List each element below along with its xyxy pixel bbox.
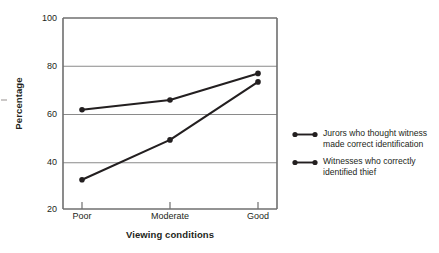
- x-axis-title: Viewing conditions: [63, 229, 277, 240]
- chart-legend: Jurors who thought witness made correct …: [292, 128, 439, 184]
- data-point-witnesses-good: [255, 79, 261, 85]
- series-witnesses-line: [82, 82, 258, 180]
- x-tick-marks: [82, 202, 258, 209]
- x-tick-label-moderate: Moderate: [134, 211, 206, 221]
- gridlines: [63, 66, 277, 163]
- data-point-jurors-moderate: [167, 97, 173, 103]
- series-witnesses: [79, 79, 261, 182]
- series-jurors-line: [82, 73, 258, 109]
- y-axis-title: Percentage: [13, 69, 24, 139]
- y-tick-label-80: 80: [31, 61, 57, 71]
- line-chart-figure: 100 80 60 40 20 Poor Moderate Good Perce…: [0, 0, 439, 253]
- data-point-jurors-good: [255, 71, 261, 77]
- legend-marker-icon: [292, 157, 318, 168]
- data-point-witnesses-moderate: [167, 137, 173, 143]
- x-tick-label-poor: Poor: [46, 211, 118, 221]
- legend-marker-icon: [292, 129, 318, 140]
- legend-label-witnesses: Witnesses who correctly identified thief: [323, 156, 439, 177]
- legend-item-jurors: Jurors who thought witness made correct …: [292, 128, 439, 149]
- data-point-witnesses-poor: [79, 177, 85, 183]
- data-point-jurors-poor: [79, 107, 85, 113]
- plot-frame: [63, 18, 277, 209]
- legend-label-jurors: Jurors who thought witness made correct …: [323, 128, 439, 149]
- y-tick-label-40: 40: [31, 157, 57, 167]
- series-jurors: [79, 71, 261, 113]
- y-tick-label-100: 100: [31, 13, 57, 23]
- legend-item-witnesses: Witnesses who correctly identified thief: [292, 156, 439, 177]
- y-tick-label-60: 60: [31, 109, 57, 119]
- x-tick-label-good: Good: [222, 211, 294, 221]
